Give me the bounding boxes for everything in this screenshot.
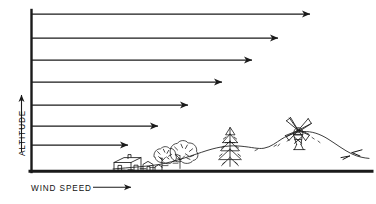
wind-speed-arrow-group [31,14,310,145]
diagram-canvas: ALTITUDE WIND SPEED [0,0,376,204]
y-axis-label-group: ALTITUDE [18,95,27,156]
y-axis-label: ALTITUDE [18,110,27,156]
x-axis-label: WIND SPEED [31,184,92,193]
ground-speck-icon [255,137,320,150]
axis-group [30,10,372,172]
x-axis-label-group: WIND SPEED [31,184,131,193]
windmill-icon [285,118,311,150]
bird-mark-icon [341,150,362,160]
wind-profile-figure: ALTITUDE WIND SPEED [0,0,376,204]
